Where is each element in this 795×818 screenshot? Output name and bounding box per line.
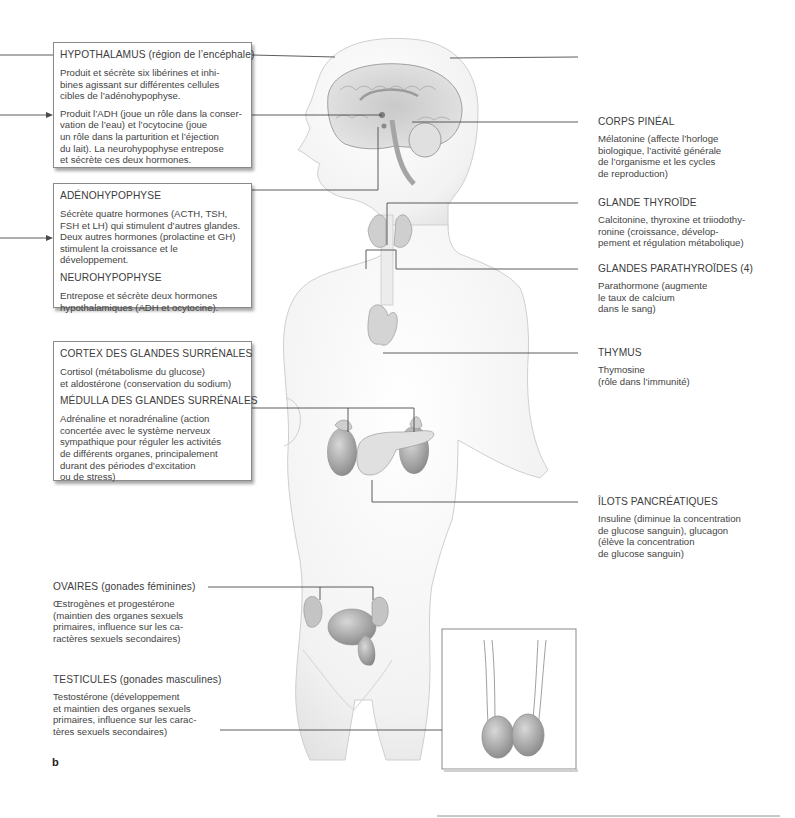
hypothalamus-label-box: HYPOTHALAMUS (région de l’encéphale) Pro… bbox=[53, 42, 252, 168]
neurohypophysis-title: NEUROHYPOPHYSE bbox=[60, 272, 245, 283]
hypothalamus-text-2: Produit l’ADH (joue un rôle dans la cons… bbox=[60, 108, 245, 166]
adenohypophysis-text: Sécrète quatre hormones (ACTH, TSH, FSH … bbox=[60, 208, 245, 266]
parathyroid-title: GLANDES PARATHYROÏDES (4) bbox=[598, 263, 753, 274]
ovaries-title: OVAIRES (gonades féminines) bbox=[53, 581, 195, 592]
pineal-label: CORPS PINÉAL Mélatonine (affecte l’horlo… bbox=[598, 116, 721, 185]
thyroid-label: GLANDE THYROÏDE Calcitonine, thyroxine e… bbox=[598, 197, 745, 255]
ovaries-label: OVAIRES (gonades féminines) Œstrogènes e… bbox=[53, 581, 195, 650]
testes-inset bbox=[442, 629, 578, 772]
pancreas-title: ÎLOTS PANCRÉATIQUES bbox=[598, 496, 741, 507]
pancreas-text: Insuline (diminue la concentration de gl… bbox=[598, 513, 741, 559]
thymus-title: THYMUS bbox=[598, 347, 690, 358]
adrenal-medulla-text: Adrénaline et noradrénaline (action conc… bbox=[60, 413, 245, 483]
adenohypophysis-title: ADÉNOHYPOPHYSE bbox=[60, 190, 245, 201]
adrenal-medulla-title: MÉDULLA DES GLANDES SURRÉNALES bbox=[60, 395, 245, 406]
testes-text: Testostérone (développement et maintien … bbox=[53, 691, 221, 737]
ovaries-text: Œstrogènes et progestérone (maintien des… bbox=[53, 598, 195, 644]
thyroid-title: GLANDE THYROÏDE bbox=[598, 197, 745, 208]
adrenal-label-box: CORTEX DES GLANDES SURRÉNALES Cortisol (… bbox=[53, 341, 252, 481]
pineal-text: Mélatonine (affecte l’horloge biologique… bbox=[598, 133, 721, 179]
panel-letter: b bbox=[52, 756, 59, 768]
pineal-title: CORPS PINÉAL bbox=[598, 116, 721, 127]
thymus-text: Thymosine (rôle dans l’immunité) bbox=[598, 364, 690, 387]
adrenal-cortex-text: Cortisol (métabolisme du glucose) et ald… bbox=[60, 366, 245, 389]
adrenal-cortex-title: CORTEX DES GLANDES SURRÉNALES bbox=[60, 348, 245, 359]
testes-label: TESTICULES (gonades masculines) Testosté… bbox=[53, 674, 221, 743]
parathyroid-text: Parathormone (augmente le taux de calciu… bbox=[598, 280, 753, 315]
thymus-label: THYMUS Thymosine (rôle dans l’immunité) bbox=[598, 347, 690, 393]
neurohypophysis-text: Entrepose et sécrète deux hormones hypot… bbox=[60, 290, 245, 313]
thyroid-text: Calcitonine, thyroxine et triiodothy- ro… bbox=[598, 214, 745, 249]
hypothalamus-title: HYPOTHALAMUS (région de l’encéphale) bbox=[60, 49, 245, 60]
testes-title: TESTICULES (gonades masculines) bbox=[53, 674, 221, 685]
parathyroid-label: GLANDES PARATHYROÏDES (4) Parathormone (… bbox=[598, 263, 753, 321]
pancreas-label: ÎLOTS PANCRÉATIQUES Insuline (diminue la… bbox=[598, 496, 741, 565]
hypophysis-label-box: ADÉNOHYPOPHYSE Sécrète quatre hormones (… bbox=[53, 183, 252, 308]
hypothalamus-text-1: Produit et sécrète six libérines et inhi… bbox=[60, 67, 245, 102]
